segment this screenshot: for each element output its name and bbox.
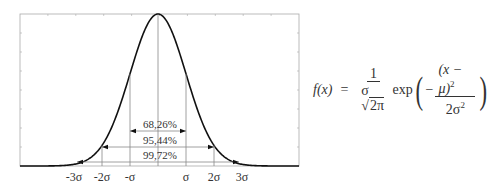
coefficient-numerator: 1 bbox=[367, 66, 380, 82]
formula-equals: = bbox=[340, 82, 348, 98]
exponent-numerator: (x − μ)2 bbox=[435, 62, 475, 97]
x-axis-label: -2σ bbox=[94, 170, 111, 184]
interval-label: 68,26% bbox=[143, 118, 177, 130]
exp-function: exp bbox=[393, 82, 413, 98]
exponent-fraction: (x − μ)2 2σ2 bbox=[435, 62, 475, 117]
interval-label: 99,72% bbox=[143, 149, 177, 161]
sqrt-icon: √ bbox=[361, 98, 369, 113]
exponent-numerator-power: 2 bbox=[450, 79, 455, 89]
x-axis-label: -3σ bbox=[66, 170, 83, 184]
arrow-right-icon bbox=[180, 129, 186, 133]
right-paren-icon: ) bbox=[480, 71, 488, 109]
x-axis-label: 3σ bbox=[236, 170, 249, 184]
x-axis-label: σ bbox=[183, 170, 190, 184]
coefficient-fraction: 1 σ √2π bbox=[358, 66, 388, 113]
exponent-denominator: 2σ2 bbox=[443, 97, 468, 117]
interval-label: 95,44% bbox=[143, 134, 177, 146]
x-axis-label: -σ bbox=[125, 170, 136, 184]
formula-lhs: f(x) bbox=[313, 82, 332, 98]
sqrt-radicand: 2π bbox=[369, 97, 384, 113]
exponent-denominator-power: 2 bbox=[460, 100, 465, 110]
x-axis-label: 2σ bbox=[208, 170, 221, 184]
coefficient-denominator: σ √2π bbox=[358, 82, 388, 113]
exponent-denominator-text: 2σ bbox=[446, 102, 461, 117]
normal-pdf-formula: f(x) = 1 σ √2π exp ( − (x − μ)2 2σ2 ) bbox=[313, 62, 490, 117]
negative-sign: − bbox=[425, 82, 433, 98]
normal-distribution-plot: 68,26%95,44%99,72%-3σ-2σ-σσ2σ3σ bbox=[0, 0, 310, 189]
sigma-symbol: σ bbox=[361, 83, 369, 98]
arrow-left-icon bbox=[130, 129, 136, 133]
left-paren-icon: ( bbox=[415, 71, 423, 109]
